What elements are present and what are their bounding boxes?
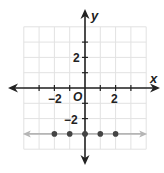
x-tick-label-2: 2 xyxy=(111,92,118,106)
data-point xyxy=(52,131,58,137)
y-axis-label: y xyxy=(90,8,99,23)
data-point xyxy=(113,131,119,137)
x-tick-label-neg2: −2 xyxy=(48,92,62,106)
x-axis-label: x xyxy=(149,71,158,86)
y-tick-label-neg2: −2 xyxy=(64,113,78,127)
origin-label: O xyxy=(73,90,83,104)
data-point xyxy=(98,131,104,137)
axes xyxy=(8,9,160,165)
data-point xyxy=(67,131,73,137)
y-tick-label-2: 2 xyxy=(73,51,80,65)
data-point xyxy=(82,131,88,137)
coordinate-graph: y x O −2 2 2 −2 xyxy=(0,0,164,173)
